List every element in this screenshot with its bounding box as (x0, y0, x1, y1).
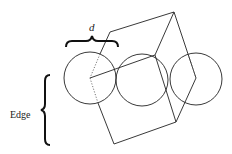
diagram-canvas: d Edge (0, 0, 232, 154)
cube-edge-middle-down (155, 55, 176, 122)
circle-middle (116, 54, 168, 106)
cube-edge-middle-left (90, 55, 155, 78)
d-brace (66, 36, 118, 47)
edge-brace (41, 75, 50, 145)
d-label: d (89, 21, 95, 33)
cube-hidden-edge-upper (90, 54, 100, 78)
cube-hidden-edge-lower (90, 78, 98, 103)
edge-label: Edge (10, 109, 31, 120)
cube-edge-right (98, 78, 196, 144)
cube-edge-top-middle (155, 12, 174, 55)
